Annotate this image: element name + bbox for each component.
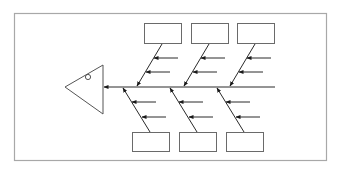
category-box-top-3[interactable] (238, 24, 275, 44)
fishbone-diagram (0, 0, 338, 172)
top-category-2 (184, 24, 229, 87)
top-category-1 (137, 24, 182, 87)
bottom-category-2 (170, 88, 217, 152)
fish-head (65, 65, 103, 114)
top-category-3 (230, 24, 275, 87)
bone-top-1 (137, 44, 162, 86)
bone-top-2 (184, 44, 209, 86)
category-box-top-2[interactable] (192, 24, 229, 44)
bone-bottom-3 (217, 88, 244, 132)
bone-bottom-1 (123, 88, 150, 132)
bottom-category-3 (217, 88, 264, 152)
bottom-category-1 (123, 88, 170, 152)
category-box-bottom-2[interactable] (180, 133, 217, 152)
bone-top-3 (230, 44, 255, 86)
category-box-bottom-1[interactable] (133, 133, 170, 152)
fish-head-triangle (65, 65, 103, 114)
category-box-bottom-3[interactable] (227, 133, 264, 152)
category-box-top-1[interactable] (145, 24, 182, 44)
bone-bottom-2 (170, 88, 197, 132)
